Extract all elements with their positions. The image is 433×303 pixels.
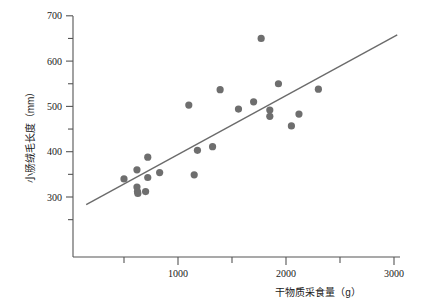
y-tick-label: 700 bbox=[47, 10, 62, 21]
x-axis-tick-labels: 100020003000 bbox=[168, 268, 404, 279]
data-point bbox=[250, 98, 257, 105]
y-tick-label: 500 bbox=[47, 101, 62, 112]
x-tick-label: 1000 bbox=[168, 268, 188, 279]
data-point bbox=[295, 111, 302, 118]
y-axis-tick-labels: 300400500600700 bbox=[47, 10, 62, 202]
data-point bbox=[191, 171, 198, 178]
data-point bbox=[258, 35, 265, 42]
x-axis-title: 干物质采食量（g） bbox=[275, 286, 361, 298]
data-point bbox=[144, 174, 151, 181]
y-tick-label: 600 bbox=[47, 56, 62, 67]
x-tick-label: 2000 bbox=[276, 268, 296, 279]
chart-canvas: 300400500600700 100020003000 小肠绒毛长度（mm） … bbox=[0, 0, 433, 303]
x-tick-label: 3000 bbox=[384, 268, 404, 279]
data-point bbox=[120, 175, 127, 182]
data-point bbox=[144, 154, 151, 161]
data-point bbox=[288, 122, 295, 129]
data-point bbox=[217, 86, 224, 93]
regression-trendline bbox=[86, 35, 397, 205]
data-point bbox=[209, 143, 216, 150]
data-point bbox=[315, 86, 322, 93]
data-point bbox=[185, 101, 192, 108]
data-point bbox=[133, 166, 140, 173]
scatter-chart: 300400500600700 100020003000 小肠绒毛长度（mm） … bbox=[0, 0, 433, 303]
data-point bbox=[266, 113, 273, 120]
data-point bbox=[156, 169, 163, 176]
axis-lines bbox=[73, 16, 400, 257]
y-tick-label: 400 bbox=[47, 146, 62, 157]
x-axis-ticks bbox=[124, 257, 394, 265]
data-point bbox=[266, 106, 273, 113]
data-point bbox=[134, 190, 141, 197]
y-tick-label: 300 bbox=[47, 192, 62, 203]
data-point bbox=[142, 188, 149, 195]
data-points bbox=[120, 35, 322, 197]
data-point bbox=[235, 106, 242, 113]
y-axis-ticks bbox=[66, 16, 73, 220]
y-axis-title: 小肠绒毛长度（mm） bbox=[24, 87, 36, 184]
data-point bbox=[275, 80, 282, 87]
data-point bbox=[194, 147, 201, 154]
trendline bbox=[86, 35, 397, 205]
